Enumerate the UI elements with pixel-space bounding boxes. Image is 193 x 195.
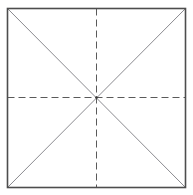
diagram-canvas [0,0,193,195]
square-diagram [0,0,193,195]
center-intersection [95,96,98,99]
